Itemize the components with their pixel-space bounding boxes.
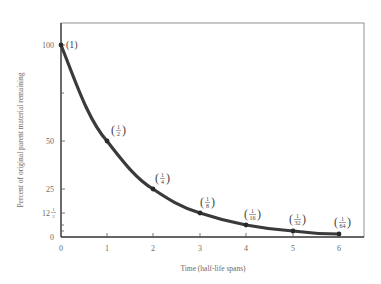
point-label-quarter: () 1 4 (155, 171, 170, 185)
y-tick-25: 25 (46, 185, 54, 194)
point-label-thirtysecond: () 1 32 (289, 212, 306, 226)
x-tick-0: 0 (59, 244, 63, 253)
y-tick-50: 50 (46, 137, 54, 146)
svg-text:2: 2 (117, 131, 120, 137)
svg-text:64: 64 (340, 223, 346, 229)
svg-text:): ) (166, 171, 170, 185)
svg-text:): ) (302, 212, 306, 226)
svg-text:): ) (347, 215, 351, 229)
y-axis-title: Percent of original parent material rema… (16, 72, 25, 207)
svg-text:(: ( (244, 207, 248, 221)
svg-text:1: 1 (161, 172, 164, 178)
svg-text:16: 16 (250, 215, 256, 221)
y-tick-100: 100 (42, 41, 54, 50)
y-tick-12-half: 12 1 2 (42, 207, 56, 219)
svg-text:1: 1 (206, 196, 209, 202)
svg-text:(: ( (200, 195, 204, 209)
x-tick-2: 2 (151, 244, 155, 253)
svg-text:): ) (211, 195, 215, 209)
x-tick-4: 4 (244, 244, 248, 253)
svg-text:4: 4 (161, 179, 164, 185)
svg-text:): ) (257, 207, 261, 221)
x-tick-3: 3 (198, 244, 202, 253)
svg-text:1: 1 (341, 216, 344, 222)
svg-text:12: 12 (42, 209, 50, 218)
x-tick-5: 5 (291, 244, 295, 253)
point-label-sixtyfourth: () 1 64 (334, 215, 351, 229)
svg-text:(: ( (334, 215, 338, 229)
svg-text:1: 1 (251, 208, 254, 214)
svg-text:): ) (122, 123, 126, 137)
decay-chart: 100 50 25 12 1 2 0 0 1 2 3 4 5 6 Time (h… (0, 0, 381, 284)
svg-text:2: 2 (52, 214, 55, 219)
svg-text:1: 1 (52, 207, 55, 212)
point-label-half: () 1 2 (111, 123, 126, 137)
svg-text:(: ( (289, 212, 293, 226)
svg-text:1: 1 (117, 124, 120, 130)
point-label-sixteenth: () 1 16 (244, 207, 261, 221)
x-tick-6: 6 (337, 244, 341, 253)
svg-text:8: 8 (206, 203, 209, 209)
x-axis-title: Time (half-life spans) (180, 264, 246, 273)
svg-text:32: 32 (295, 220, 301, 226)
svg-text:1: 1 (296, 213, 299, 219)
point-label-1: (1) (66, 39, 78, 51)
point-label-eighth: () 1 8 (200, 195, 215, 209)
y-tick-0: 0 (50, 233, 54, 242)
svg-text:(: ( (155, 171, 159, 185)
svg-text:(: ( (111, 123, 115, 137)
x-tick-1: 1 (105, 244, 109, 253)
